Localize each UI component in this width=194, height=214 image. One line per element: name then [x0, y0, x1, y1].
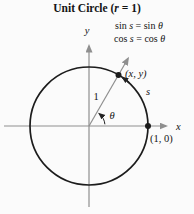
angle-label: θ	[109, 110, 114, 121]
point-x-y-label: (x, y)	[125, 68, 147, 80]
point-1-0-dot	[145, 123, 151, 129]
y-axis-label: y	[84, 25, 90, 36]
point-1-0-label: (1, 0)	[150, 133, 173, 145]
x-axis-label: x	[175, 121, 181, 132]
point-x-y-dot	[116, 72, 122, 78]
arc-length-label: s	[146, 86, 150, 97]
equation-cos: cos s = cos θ	[114, 33, 165, 44]
diagram-title: Unit Circle (r = 1)	[53, 2, 141, 15]
radius-label: 1	[93, 91, 98, 102]
angle-arc	[99, 114, 105, 125]
unit-circle-figure: Unit Circle (r = 1) sin s = sin θ cos s …	[0, 0, 194, 214]
unit-circle-diagram: Unit Circle (r = 1) sin s = sin θ cos s …	[0, 0, 194, 214]
equation-sin: sin s = sin θ	[115, 20, 163, 31]
